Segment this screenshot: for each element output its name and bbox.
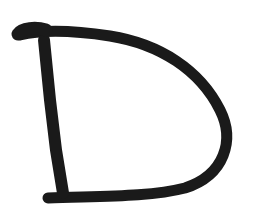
letter-d-icon	[0, 0, 255, 219]
letter-d-drawing: D	[0, 0, 255, 219]
stem-stroke	[44, 40, 63, 193]
top-left-cap	[18, 28, 46, 34]
